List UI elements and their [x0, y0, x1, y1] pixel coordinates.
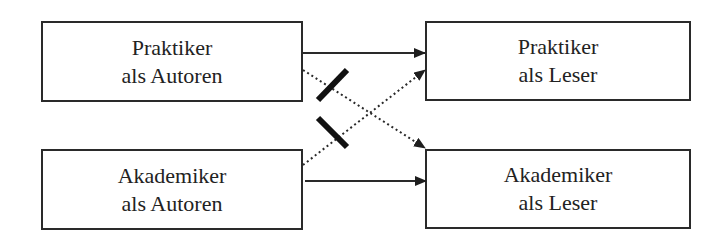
block-bar-icon [318, 70, 347, 100]
block-bar-icon [318, 118, 347, 147]
diagram-canvas: Praktiker als Autoren Akademiker als Aut… [0, 0, 726, 245]
edges-layer [0, 0, 726, 245]
edge-praktiker-to-akademiker-dotted [303, 70, 425, 148]
